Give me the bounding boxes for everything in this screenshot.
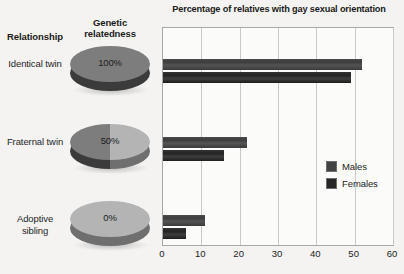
x-axis-tick-labels: 0102030405060 [162,248,394,266]
row-label-fraternal-twin: Fraternal twin [4,136,66,148]
bar-adoptive-sibling-females [163,228,186,239]
pie-chart-adoptive-sibling: 0% [70,201,150,253]
pie-chart-identical-twin: 100% [70,46,150,98]
legend-swatch-males [326,161,337,172]
chart-legend: MalesFemales [326,158,398,192]
pie-value-label: 50% [70,135,150,146]
x-tick-label-40: 40 [303,248,327,259]
bar-adoptive-sibling-males [163,215,205,226]
x-tick-label-60: 60 [380,248,404,259]
legend-label-males: Males [342,161,367,172]
x-tick-label-10: 10 [188,248,212,259]
legend-item-females: Females [326,175,398,192]
column-header-relationship: Relationship [4,31,66,42]
gridline-60 [393,28,394,245]
bar-fraternal-twin-females [163,150,224,161]
bar-chart-plot-area [162,27,394,246]
pie-value-label: 0% [70,212,150,223]
bar-fraternal-twin-males [163,137,247,148]
x-tick-label-0: 0 [150,248,174,259]
x-tick-label-50: 50 [342,248,366,259]
legend-label-females: Females [342,178,378,189]
legend-item-males: Males [326,158,398,175]
x-tick-label-30: 30 [265,248,289,259]
column-header-genetic-relatedness: Genetic relatedness [68,17,152,39]
row-label-identical-twin: Identical twin [4,58,66,70]
row-label-adoptive-sibling: Adoptive sibling [4,213,66,236]
x-tick-label-20: 20 [227,248,251,259]
figure-root: Relationship Genetic relatedness Identic… [0,0,404,274]
legend-swatch-females [326,178,337,189]
bar-identical-twin-males [163,59,362,70]
chart-title: Percentage of relatives with gay sexual … [158,4,400,14]
pie-chart-fraternal-twin: 50% [70,124,150,176]
bar-identical-twin-females [163,72,351,83]
pie-value-label: 100% [70,57,150,68]
